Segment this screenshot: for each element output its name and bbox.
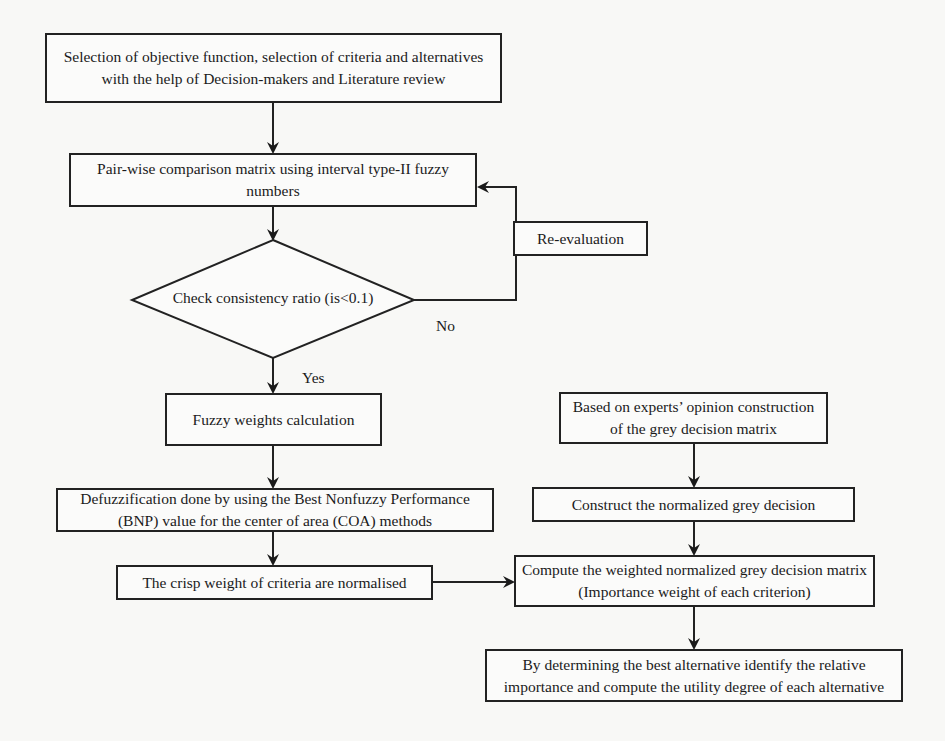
node-defuzzification: Defuzzification done by using the Best N… bbox=[56, 488, 494, 532]
node-experts-matrix: Based on experts’ opinion construction o… bbox=[559, 392, 828, 444]
node-crisp-weights-label: The crisp weight of criteria are normali… bbox=[142, 572, 406, 594]
node-weighted: Compute the weighted normalized grey dec… bbox=[514, 555, 875, 607]
edge-label-no: No bbox=[436, 317, 455, 335]
node-normalized-label: Construct the normalized grey decision bbox=[572, 494, 816, 516]
flowchart-canvas: Selection of objective function, selecti… bbox=[0, 0, 945, 741]
node-fuzzy-weights: Fuzzy weights calculation bbox=[165, 393, 382, 446]
node-best-alternative: By determining the best alternative iden… bbox=[485, 649, 903, 702]
node-best-alternative-label: By determining the best alternative iden… bbox=[491, 654, 897, 698]
edge-label-yes: Yes bbox=[302, 369, 325, 387]
node-fuzzy-weights-label: Fuzzy weights calculation bbox=[193, 409, 355, 431]
node-experts-matrix-label: Based on experts’ opinion construction o… bbox=[565, 396, 822, 440]
node-crisp-weights: The crisp weight of criteria are normali… bbox=[116, 565, 433, 600]
node-reevaluation: Re-evaluation bbox=[513, 221, 648, 256]
node-consistency-label: Check consistency ratio (is<0.1) bbox=[173, 289, 374, 306]
node-defuzzification-label: Defuzzification done by using the Best N… bbox=[62, 488, 488, 532]
node-normalized: Construct the normalized grey decision bbox=[532, 487, 855, 522]
connectors bbox=[0, 0, 945, 741]
node-reevaluation-label: Re-evaluation bbox=[537, 228, 624, 250]
node-selection: Selection of objective function, selecti… bbox=[45, 33, 502, 103]
node-selection-label: Selection of objective function, selecti… bbox=[51, 46, 496, 90]
node-pairwise-label: Pair-wise comparison matrix using interv… bbox=[75, 158, 471, 202]
node-pairwise: Pair-wise comparison matrix using interv… bbox=[69, 153, 477, 207]
node-weighted-label: Compute the weighted normalized grey dec… bbox=[520, 559, 869, 603]
node-consistency: Check consistency ratio (is<0.1) bbox=[140, 289, 406, 307]
